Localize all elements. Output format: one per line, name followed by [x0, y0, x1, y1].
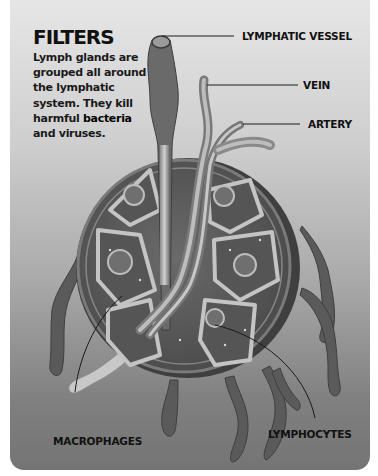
label-artery: ARTERY: [308, 118, 352, 130]
body-text-suffix: and viruses.: [33, 127, 105, 140]
panel-body-text: Lymph glands are grouped all around the …: [33, 50, 153, 141]
body-text-bold-term: bacteria: [83, 112, 132, 125]
label-macrophages: MACROPHAGES: [53, 435, 142, 447]
label-lymphocytes: LYMPHOCYTES: [268, 428, 352, 440]
panel-heading: FILTERS: [33, 27, 114, 47]
label-vein: VEIN: [303, 79, 330, 91]
label-lymphatic-vessel: LYMPHATIC VESSEL: [242, 30, 352, 42]
